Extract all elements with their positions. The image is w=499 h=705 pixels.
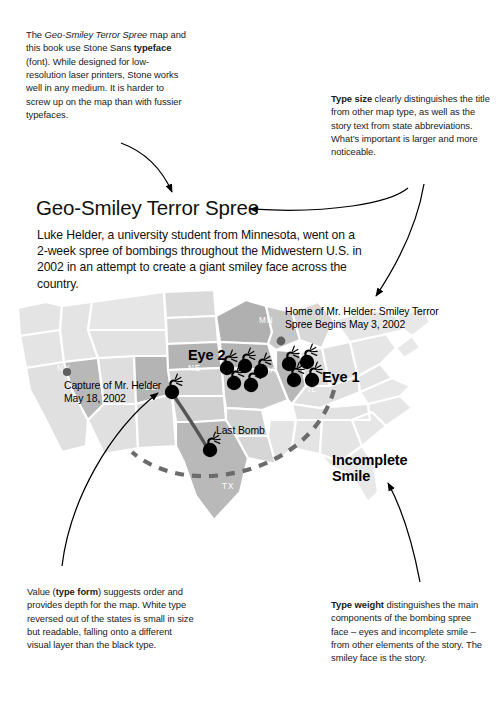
note-typeface-lead: The: [26, 29, 45, 40]
note-typeface-italic: Geo-Smiley Terror Spree: [45, 29, 148, 40]
state-al: [292, 420, 322, 454]
state-sd: [166, 316, 218, 344]
state-nd: [164, 290, 216, 318]
state-abbr-mn: MN: [259, 316, 274, 325]
map-label-last-bomb: Last Bomb: [216, 425, 265, 436]
arrow-typesize-to-title: [250, 188, 408, 210]
annotation-note-typeface: The Geo-Smiley Terror Spree map and this…: [26, 28, 186, 121]
annotation-note-typesize: Type size clearly distinguishes the titl…: [331, 92, 491, 159]
map-callout-home-of-helder: Home of Mr. Helder: Smiley Terror Spree …: [285, 305, 455, 331]
arrow-typeface-to-title: [121, 143, 172, 192]
map-callout-capture-of-helder: Capture of Mr. Helder May 18, 2002: [64, 379, 174, 405]
note-typeform-bold: type form: [56, 586, 98, 597]
map-label-eye-2: Eye 2: [188, 347, 225, 363]
state-md-nj: [396, 336, 420, 358]
annotation-note-typeform: Value (type form) suggests order and pro…: [27, 585, 197, 652]
state-abbr-il: IL: [308, 385, 317, 394]
state-ok: [172, 396, 226, 422]
map-label-incomplete-smile: Incomplete Smile: [332, 452, 427, 484]
state-mt: [88, 292, 166, 330]
story-text: Luke Helder, a university student from M…: [37, 227, 367, 292]
state-az: [88, 404, 138, 454]
note-typeweight-bold: Type weight: [331, 599, 384, 610]
page-title: Geo-Smiley Terror Spree: [36, 196, 259, 220]
note-typeform-lead: Value (: [27, 586, 56, 597]
arrow-typesize-to-home-callout: [376, 184, 424, 296]
state-wy: [88, 330, 168, 358]
state-abbr-ne: NE: [188, 364, 201, 373]
state-abbr-nv: NV: [57, 364, 70, 373]
state-abbr-tx: TX: [222, 482, 234, 491]
annotation-note-typeweight: Type weight distinguishes the main compo…: [331, 598, 491, 665]
note-typeface-bold: typeface: [134, 42, 172, 53]
note-typesize-bold: Type size: [331, 93, 372, 104]
map-label-eye-1: Eye 1: [322, 369, 359, 385]
note-typeface-tail: (font). While designed for low-resolutio…: [26, 56, 182, 120]
state-abbr-ia: IA: [267, 366, 277, 375]
